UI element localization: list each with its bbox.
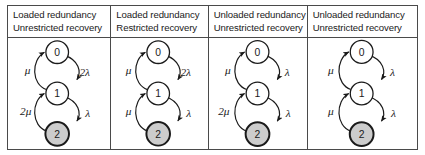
state-node-1-label: 1 [358,88,364,99]
panel-header-line-2: Unrestricted recovery [313,22,413,34]
state-node-0-label: 0 [156,47,162,58]
state-node-2-label: 2 [254,129,260,140]
state-node-2-label: 2 [54,129,60,140]
rate-label-repair-1-0: μ [24,64,31,76]
state-node-0-label: 0 [54,47,60,58]
state-transition-diagram-figure: Loaded redundancy Unrestricted recovery [0,0,425,155]
rate-label-repair-2-1: 2μ [20,105,32,117]
rate-label-failure-0-1: 2λ [79,66,90,78]
panel-header-line-2: Restricted recovery [116,22,203,34]
panel-table: Loaded redundancy Unrestricted recovery [7,5,418,150]
panel-header-line-2: Unrestricted recovery [214,22,303,34]
state-node-2-label: 2 [156,129,162,140]
rate-label-failure-0-1: λ [389,66,395,78]
rate-label-failure-1-2: λ [84,107,90,119]
edge-repair-2-1 [136,94,148,131]
rate-label-repair-2-1: 2μ [218,105,230,117]
rate-label-repair-1-0: μ [224,64,231,76]
panel-header: Loaded redundancy Restricted recovery [111,6,207,38]
panel-loaded-unrestricted: Loaded redundancy Unrestricted recovery [8,6,111,149]
edge-repair-1-0 [235,52,247,90]
panel-header-line-1: Unloaded redundancy [214,9,303,21]
markov-diagram: 0 1 2 2λ λ μ 2μ [8,38,110,149]
panel-unloaded-unrestricted: Unloaded redundancy Unrestricted recover… [209,6,308,149]
rate-label-failure-0-1: 2λ [181,66,192,78]
panel-body: 0 1 2 2λ λ μ 2μ [8,38,110,149]
panel-header-line-1: Loaded redundancy [116,9,203,21]
state-node-0-label: 0 [254,47,260,58]
rate-label-failure-1-2: λ [390,107,396,119]
panel-unloaded-unrestricted-2: Unloaded redundancy Unrestricted recover… [308,6,417,149]
panel-header-line-2: Unrestricted recovery [13,22,106,34]
rate-label-failure-1-2: λ [186,107,192,119]
rate-label-repair-2-1: μ [327,105,334,117]
panel-body: 0 1 2 λ λ μ 2μ [209,38,307,149]
edge-repair-2-1 [235,94,247,132]
state-node-1-label: 1 [254,88,260,99]
markov-diagram: 0 1 2 λ λ μ μ [308,38,417,149]
state-node-0-label: 0 [358,47,364,58]
panel-body: 0 1 2 2λ λ μ μ [111,38,207,149]
panel-loaded-restricted: Loaded redundancy Restricted recovery 0 [111,6,208,149]
edge-repair-1-0 [35,52,47,89]
markov-diagram: 0 1 2 2λ λ μ μ [111,38,207,149]
rate-label-repair-1-0: μ [125,64,132,76]
state-node-2-label: 2 [358,129,364,140]
rate-label-repair-2-1: μ [125,105,132,117]
markov-diagram: 0 1 2 λ λ μ 2μ [209,38,307,149]
panel-body: 0 1 2 λ λ μ μ [308,38,417,149]
edge-repair-2-1 [339,94,351,132]
panel-header: Unloaded redundancy Unrestricted recover… [308,6,417,38]
panel-header-line-1: Unloaded redundancy [313,9,413,21]
rate-label-failure-1-2: λ [284,107,290,119]
edge-repair-2-1 [35,94,47,131]
rate-label-repair-1-0: μ [327,64,334,76]
panel-header-line-1: Loaded redundancy [13,9,106,21]
edge-repair-1-0 [136,52,148,89]
rate-label-failure-0-1: λ [283,66,289,78]
state-node-1-label: 1 [156,88,162,99]
edge-repair-1-0 [339,52,351,90]
panel-header: Loaded redundancy Unrestricted recovery [8,6,110,38]
state-node-1-label: 1 [54,88,60,99]
panel-header: Unloaded redundancy Unrestricted recover… [209,6,307,38]
